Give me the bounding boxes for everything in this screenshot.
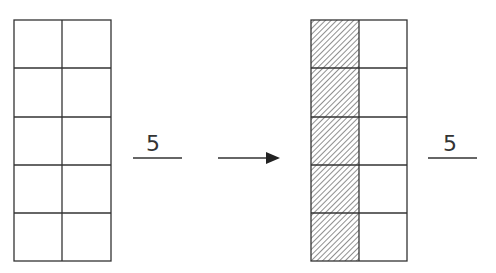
- right-grid: [311, 20, 407, 261]
- left-denominator: 5: [146, 133, 160, 155]
- right-denominator: 5: [443, 133, 457, 155]
- arrow-icon: [218, 152, 280, 164]
- left-grid: [14, 20, 111, 261]
- shaded-column: [311, 20, 359, 261]
- fraction-diagram: [0, 0, 496, 273]
